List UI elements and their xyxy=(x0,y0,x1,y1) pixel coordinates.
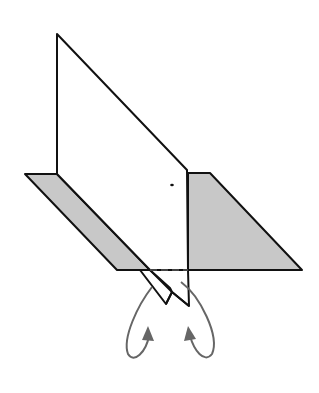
right-gray-flap xyxy=(188,173,302,270)
right-arrowhead-icon xyxy=(184,326,196,341)
small-dot-mark xyxy=(170,184,174,186)
left-arrowhead-icon xyxy=(142,326,154,341)
diagram-canvas xyxy=(0,0,319,393)
origami-diagram xyxy=(0,0,319,393)
left-curved-arrow-icon xyxy=(127,287,152,358)
vertical-white-panel xyxy=(57,34,188,270)
